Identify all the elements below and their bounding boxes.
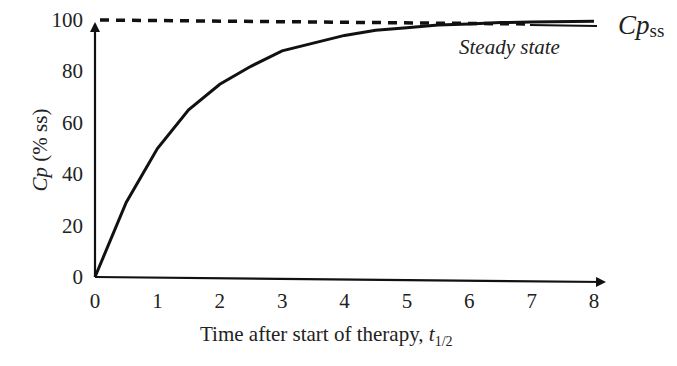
x-axis-label: Time after start of therapy, t1/2 xyxy=(200,322,453,349)
x-tick-label: 0 xyxy=(90,289,101,313)
cpss-label: Cpss xyxy=(618,10,664,41)
y-tick-label: 0 xyxy=(73,265,84,289)
y-tick-label: 40 xyxy=(62,162,83,186)
x-tick-label: 2 xyxy=(215,289,226,313)
y-axis-label: Cp (% ss) xyxy=(28,109,52,192)
steady-state-annotation: Steady state xyxy=(459,35,560,59)
x-tick-label: 4 xyxy=(339,289,350,313)
x-axis xyxy=(95,277,604,282)
x-tick-label: 5 xyxy=(402,289,413,313)
y-tick-label: 100 xyxy=(52,8,84,32)
x-tick-label: 6 xyxy=(464,289,475,313)
x-tick-label: 8 xyxy=(589,289,600,313)
steady-state-solid-tail xyxy=(530,25,597,26)
x-tick-label: 7 xyxy=(526,289,537,313)
y-tick-label: 60 xyxy=(62,111,83,135)
x-tick-label: 1 xyxy=(152,289,163,313)
cp-curve xyxy=(95,21,594,277)
x-tick-labels: 012345678 xyxy=(90,289,600,313)
y-tick-label: 20 xyxy=(62,214,83,238)
y-tick-label: 80 xyxy=(62,59,83,83)
y-tick-labels: 020406080100 xyxy=(52,8,84,289)
x-tick-label: 3 xyxy=(277,289,288,313)
chart: 020406080100 012345678 Cp (% ss) Time af… xyxy=(0,0,677,366)
